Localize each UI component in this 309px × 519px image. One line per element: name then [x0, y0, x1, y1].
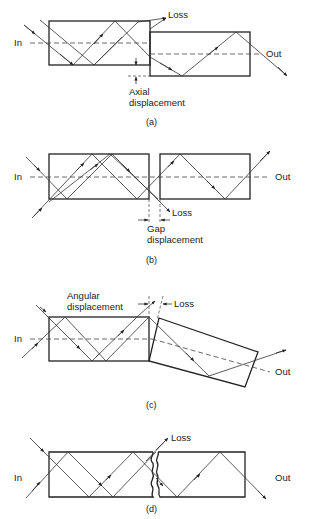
label-loss: Loss [172, 207, 192, 218]
label-displacement-2: displacement [147, 234, 203, 245]
panel-c: In Out Loss Angular displacement (c) [14, 290, 291, 410]
label-displacement-2: displacement [67, 301, 123, 312]
panel-d: In Out Loss (d) [14, 432, 291, 514]
label-in: In [14, 37, 22, 48]
caption-c: (c) [146, 400, 157, 410]
ray-loss [40, 20, 138, 65]
label-out: Out [275, 366, 291, 377]
label-loss: Loss [168, 9, 188, 20]
caption-b: (b) [146, 255, 157, 265]
fiber-left [49, 452, 153, 497]
loss-arrow [156, 438, 168, 450]
fiber-right [157, 452, 245, 497]
label-loss: Loss [174, 298, 194, 309]
ray [24, 21, 286, 76]
fiber-splice-loss-diagram: In Out Loss Axial displacement (a) In Ou… [0, 0, 309, 519]
fiber-right-tilted [149, 318, 258, 387]
label-loss: Loss [171, 432, 191, 443]
label-in: In [14, 333, 22, 344]
panel-b: In Out Loss Gap displacement (b) [14, 151, 291, 265]
label-in: In [14, 171, 22, 182]
caption-a: (a) [146, 117, 157, 127]
label-displacement: Gap [147, 223, 165, 234]
label-out: Out [266, 48, 282, 59]
panel-a: In Out Loss Axial displacement (a) [14, 9, 287, 127]
label-displacement: Angular [67, 290, 100, 301]
label-out: Out [275, 171, 291, 182]
label-out: Out [275, 472, 291, 483]
label-displacement: Axial [129, 86, 150, 97]
label-displacement-2: displacement [129, 97, 185, 108]
label-in: In [14, 472, 22, 483]
caption-d: (d) [146, 504, 157, 514]
